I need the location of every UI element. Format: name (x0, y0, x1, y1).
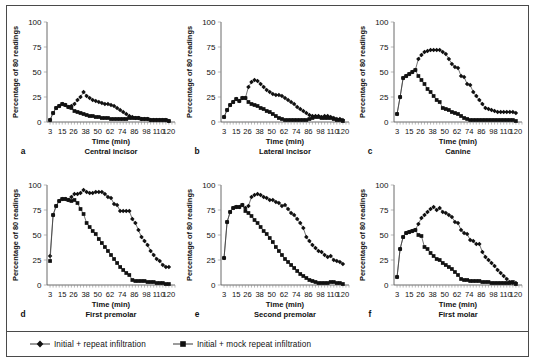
y-tick-label: 50 (206, 230, 215, 239)
data-point-square (127, 273, 131, 277)
data-point-square (243, 96, 247, 100)
panel-grid: 025507510031526385062748698110120Percent… (7, 6, 528, 331)
data-point-square (76, 201, 80, 205)
data-point-diamond (447, 57, 452, 62)
x-tick-label: 3 (395, 289, 399, 298)
chart-panel-a: 025507510031526385062748698110120Percent… (7, 6, 181, 169)
x-tick-label: 62 (453, 289, 461, 298)
x-tick-label: 15 (405, 289, 413, 298)
data-point-square (420, 234, 424, 238)
panel-letter: a (21, 146, 26, 156)
data-point-square (48, 118, 52, 122)
data-point-square (79, 207, 83, 211)
data-point-diamond (136, 227, 141, 232)
data-point-square (268, 236, 272, 240)
y-tick-label: 75 (33, 205, 42, 214)
data-point-square (341, 119, 345, 123)
data-point-square (97, 237, 101, 241)
data-point-square (222, 115, 226, 119)
y-tick-label: 75 (380, 205, 389, 214)
series-line (224, 80, 343, 120)
y-tick-label: 100 (375, 180, 389, 189)
y-tick-label: 50 (380, 68, 389, 77)
data-point-square (255, 221, 259, 225)
chart-panel-e: 025507510031526385062748698110120Percent… (181, 169, 355, 332)
data-point-square (85, 221, 89, 225)
data-point-square (399, 95, 403, 99)
x-tick-label: 3 (48, 289, 52, 298)
y-axis-title: Percentage of 80 readings (11, 26, 20, 118)
x-tick-label: 26 (243, 289, 251, 298)
x-tick-label: 74 (292, 127, 300, 136)
x-tick-label: 120 (163, 127, 176, 136)
series-2-square (222, 203, 345, 286)
chart-svg-d: 025507510031526385062748698110120Percent… (7, 169, 180, 331)
x-tick-label: 15 (232, 127, 240, 136)
data-point-square (438, 100, 442, 104)
x-tick-label: 50 (441, 127, 449, 136)
x-tick-label: 120 (336, 127, 349, 136)
y-tick-label: 100 (28, 18, 42, 27)
y-tick-label: 25 (206, 93, 215, 102)
x-tick-label: 86 (304, 289, 312, 298)
series-2-square (396, 68, 519, 123)
y-axis-title: Percentage of 80 readings (184, 188, 193, 280)
panel-subtitle: First molar (439, 310, 478, 319)
x-tick-label: 38 (81, 289, 89, 298)
x-tick-label: 74 (465, 127, 473, 136)
data-point-square (167, 119, 171, 123)
data-point-square (222, 256, 226, 260)
data-point-square (399, 247, 403, 251)
data-point-square (341, 282, 345, 286)
y-tick-label: 25 (206, 255, 215, 264)
y-tick-label: 50 (33, 230, 42, 239)
series-line (224, 205, 343, 284)
x-tick-label: 62 (453, 127, 461, 136)
x-tick-label: 50 (94, 289, 102, 298)
y-axis-title: Percentage of 80 readings (11, 188, 20, 280)
y-tick-label: 0 (211, 118, 216, 127)
data-point-square (258, 225, 262, 229)
x-axis-title: Time (min) (439, 300, 478, 309)
data-point-square (54, 204, 58, 208)
data-point-square (402, 235, 406, 239)
y-tick-label: 100 (202, 180, 216, 189)
data-point-square (420, 78, 424, 82)
x-tick-label: 3 (222, 289, 226, 298)
data-point-diamond (301, 225, 306, 230)
x-tick-label: 15 (58, 289, 66, 298)
x-tick-label: 86 (477, 289, 485, 298)
series-line (397, 50, 516, 114)
data-point-square (280, 253, 284, 257)
x-axis-title: Time (min) (92, 137, 131, 146)
x-tick-label: 50 (441, 289, 449, 298)
x-tick-label: 15 (405, 127, 413, 136)
chart-svg-b: 025507510031526385062748698110120Percent… (181, 6, 354, 168)
series-2-square (396, 228, 519, 286)
x-tick-label: 3 (222, 127, 226, 136)
panel-letter: c (368, 146, 373, 156)
y-tick-label: 25 (380, 93, 389, 102)
data-point-diamond (416, 221, 421, 226)
data-point-square (225, 220, 229, 224)
panel-subtitle: Canine (446, 147, 471, 156)
series-line (50, 199, 169, 284)
series-2-square (48, 197, 171, 286)
data-point-square (48, 259, 52, 263)
x-tick-label: 38 (255, 289, 263, 298)
x-tick-label: 74 (118, 289, 126, 298)
chart-svg-f: 025507510031526385062748698110120Percent… (354, 169, 527, 331)
x-tick-label: 15 (58, 127, 66, 136)
y-tick-label: 0 (37, 280, 42, 289)
panel-subtitle: Lateral incisor (259, 147, 311, 156)
data-point-square (225, 108, 229, 112)
data-point-square (112, 257, 116, 261)
x-tick-label: 120 (510, 289, 523, 298)
x-axis-title: Time (min) (92, 300, 131, 309)
x-tick-label: 62 (106, 127, 114, 136)
y-tick-label: 75 (206, 43, 215, 52)
data-point-square (82, 212, 86, 216)
data-point-diamond (477, 241, 482, 246)
y-tick-label: 0 (384, 280, 389, 289)
panel-subtitle: First premolar (85, 310, 136, 319)
